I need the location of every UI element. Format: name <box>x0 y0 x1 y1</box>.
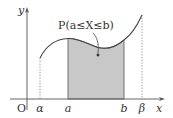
tick-beta: β <box>138 102 145 115</box>
density-diagram: P(a≤X≤b) y x O α a b β <box>0 0 173 118</box>
pointer-dot <box>97 54 100 57</box>
x-axis-label: x <box>156 102 163 115</box>
shaded-probability-area <box>68 38 124 99</box>
tick-alpha: α <box>36 102 44 115</box>
tick-b: b <box>120 102 127 115</box>
origin-label: O <box>17 102 26 115</box>
probability-label: P(a≤X≤b) <box>58 19 114 32</box>
tick-a: a <box>65 102 72 115</box>
y-axis-label: y <box>17 4 25 17</box>
